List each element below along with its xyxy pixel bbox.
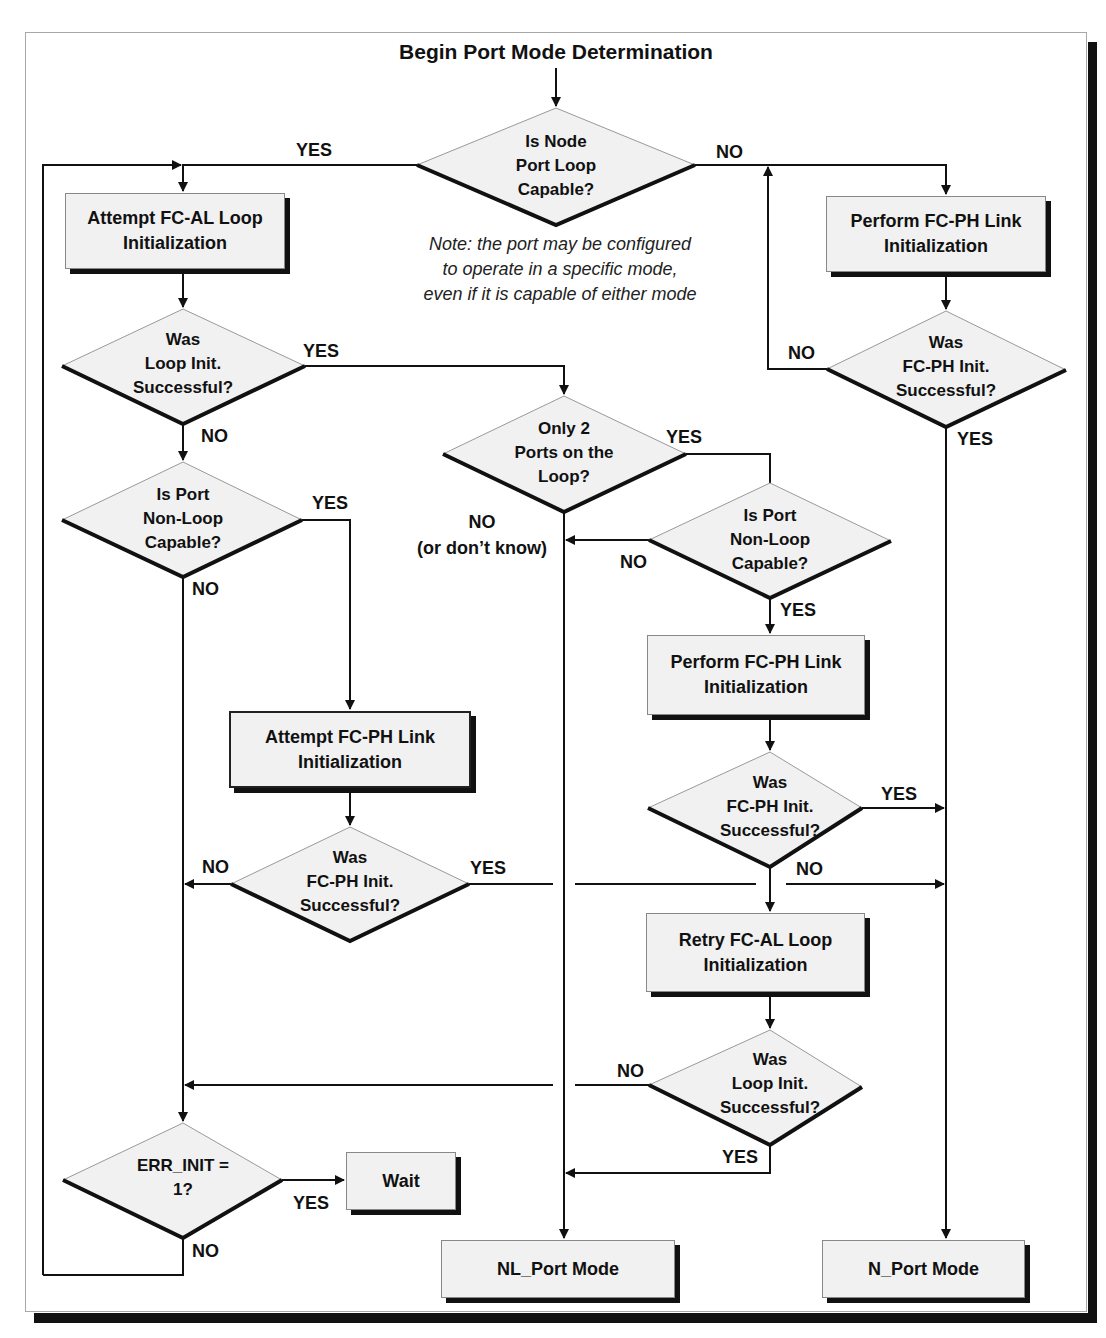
process-perform-fcph-link-init-mid: Perform FC-PH Link Initialization: [647, 635, 865, 715]
decision-line: Was: [333, 846, 367, 870]
edge-label-d8-no: NO: [202, 856, 229, 878]
diagram-title: Begin Port Mode Determination: [0, 40, 1106, 64]
terminal-n-port-mode: N_Port Mode: [822, 1240, 1025, 1298]
decision-line: ERR_INIT =: [137, 1154, 229, 1178]
decision-line: Capable?: [145, 531, 222, 555]
box-label: Initialization: [884, 234, 988, 259]
decision-line: Capable?: [518, 178, 595, 202]
edge-label-d4-no-sub: (or don’t know): [402, 535, 562, 561]
box-label: Perform FC-PH Link: [670, 650, 841, 675]
box-label: N_Port Mode: [868, 1257, 979, 1282]
decision-line: Was: [753, 771, 787, 795]
process-wait: Wait: [346, 1152, 456, 1210]
edge-label-d4-yes: YES: [666, 426, 702, 448]
decision-text-non-loop-capable-right: Is Port Non-Loop Capable?: [700, 502, 840, 578]
edge-label-d7-yes: YES: [881, 783, 917, 805]
decision-line: Successful?: [300, 894, 400, 918]
decision-line: Loop?: [538, 465, 590, 489]
note-line: to operate in a specific mode,: [380, 257, 740, 282]
process-attempt-fcal-loop-init: Attempt FC-AL Loop Initialization: [65, 193, 285, 269]
decision-line: FC-PH Init.: [903, 355, 990, 379]
edge-label-d5-no: NO: [192, 578, 219, 600]
decision-line: Port Loop: [516, 154, 596, 178]
decision-text-fcph-init-ok-top: Was FC-PH Init. Successful?: [876, 329, 1016, 405]
decision-line: Successful?: [133, 376, 233, 400]
decision-text-loop-init-ok-1: Was Loop Init. Successful?: [113, 326, 253, 402]
box-label: Attempt FC-AL Loop: [87, 206, 263, 231]
decision-line: Loop Init.: [732, 1072, 808, 1096]
note-line: Note: the port may be configured: [380, 232, 740, 257]
edge-label-d4-no-main: NO: [402, 509, 562, 535]
decision-line: Was: [166, 328, 200, 352]
box-label: Initialization: [703, 953, 807, 978]
decision-text-node-loop-capable: Is Node Port Loop Capable?: [476, 128, 636, 204]
edge-label-d9-yes: YES: [722, 1146, 758, 1168]
configuration-note: Note: the port may be configured to oper…: [380, 232, 740, 307]
decision-text-loop-init-ok-2: Was Loop Init. Successful?: [700, 1046, 840, 1122]
decision-line: Non-Loop: [143, 507, 223, 531]
edge-label-d2-no: NO: [201, 425, 228, 447]
terminal-nl-port-mode: NL_Port Mode: [441, 1240, 675, 1298]
decision-text-fcph-init-ok-mid: Was FC-PH Init. Successful?: [700, 769, 840, 845]
decision-line: FC-PH Init.: [307, 870, 394, 894]
edge-label-d9-no: NO: [617, 1060, 644, 1082]
note-line: even if it is capable of either mode: [380, 282, 740, 307]
decision-text-only-two-ports: Only 2 Ports on the Loop?: [489, 415, 639, 491]
box-label: Initialization: [298, 750, 402, 775]
decision-line: Non-Loop: [730, 528, 810, 552]
decision-text-non-loop-capable-left: Is Port Non-Loop Capable?: [113, 481, 253, 557]
edge-label-d3-yes: YES: [957, 428, 993, 450]
edge-label-d6-yes: YES: [780, 599, 816, 621]
decision-line: Only 2: [538, 417, 590, 441]
edge-label-d10-yes: YES: [293, 1192, 329, 1214]
decision-text-err-init: ERR_INIT = 1?: [113, 1152, 253, 1204]
decision-line: Was: [753, 1048, 787, 1072]
edge-label-d6-no: NO: [620, 551, 647, 573]
decision-line: Was: [929, 331, 963, 355]
decision-line: Successful?: [720, 1096, 820, 1120]
box-label: Wait: [382, 1169, 419, 1194]
edge-label-d3-no: NO: [788, 342, 815, 364]
box-label: Perform FC-PH Link: [850, 209, 1021, 234]
box-label: Retry FC-AL Loop: [679, 928, 833, 953]
edge-label-d8-yes: YES: [470, 857, 506, 879]
decision-line: Successful?: [896, 379, 996, 403]
edge-label-d4-no: NO (or don’t know): [402, 509, 562, 561]
process-perform-fcph-link-init-top: Perform FC-PH Link Initialization: [826, 196, 1046, 272]
edge-label-d7-no: NO: [796, 858, 823, 880]
process-retry-fcal-loop-init: Retry FC-AL Loop Initialization: [646, 913, 865, 992]
decision-line: Is Port: [157, 483, 210, 507]
process-attempt-fcph-link-init: Attempt FC-PH Link Initialization: [229, 711, 471, 788]
edge-label-d5-yes: YES: [312, 492, 348, 514]
box-label: Attempt FC-PH Link: [265, 725, 435, 750]
box-label: Initialization: [704, 675, 808, 700]
decision-line: Ports on the: [514, 441, 613, 465]
decision-line: Loop Init.: [145, 352, 221, 376]
decision-text-fcph-init-ok-left: Was FC-PH Init. Successful?: [280, 844, 420, 920]
box-label: NL_Port Mode: [497, 1257, 619, 1282]
decision-line: Capable?: [732, 552, 809, 576]
decision-line: FC-PH Init.: [727, 795, 814, 819]
decision-line: 1?: [173, 1178, 193, 1202]
decision-line: Is Port: [744, 504, 797, 528]
box-label: Initialization: [123, 231, 227, 256]
edge-label-d1-no: NO: [716, 141, 743, 163]
decision-line: Is Node: [525, 130, 586, 154]
edge-label-d2-yes: YES: [303, 340, 339, 362]
edge-label-d1-yes: YES: [296, 139, 332, 161]
decision-line: Successful?: [720, 819, 820, 843]
edge-label-d10-no: NO: [192, 1240, 219, 1262]
